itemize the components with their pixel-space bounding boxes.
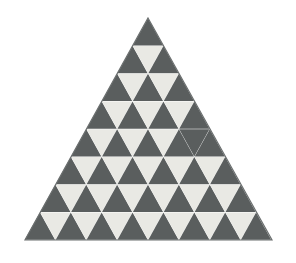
figure-canvas xyxy=(0,0,296,263)
triangle-tessellation-image xyxy=(0,0,296,263)
